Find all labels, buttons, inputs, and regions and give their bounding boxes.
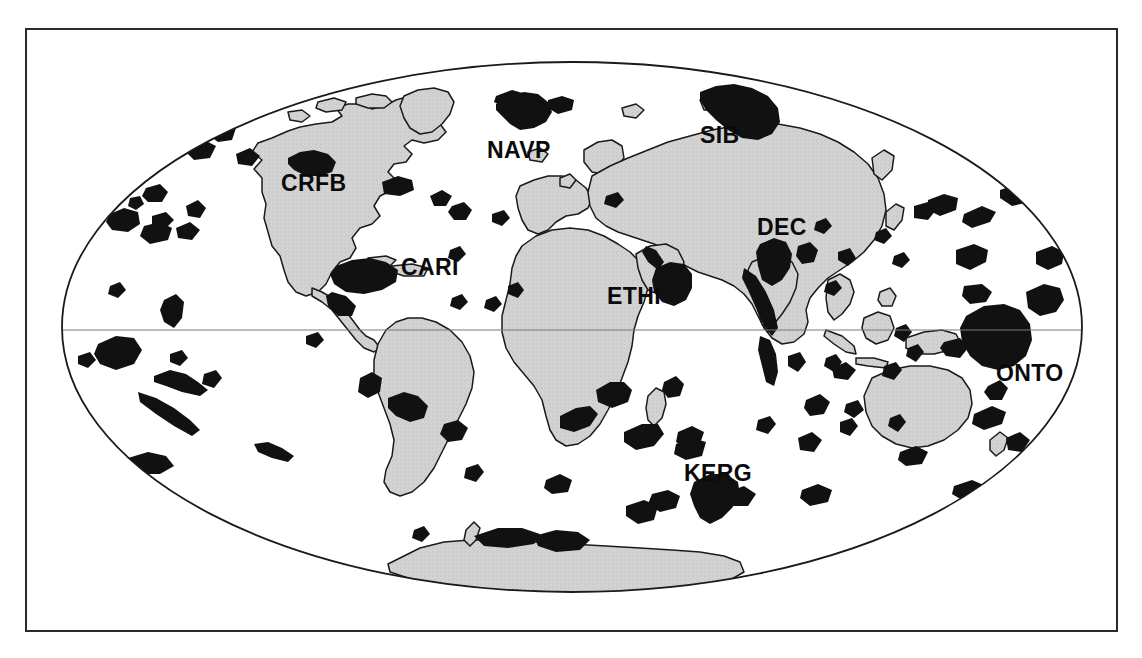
landmass-sumatra xyxy=(824,330,856,354)
lip-dot-1 xyxy=(306,332,324,348)
lip-indian-2 xyxy=(804,394,830,416)
figure-root: CRFB NAVP SIB CARI DEC ETHI ONTO KERG xyxy=(0,0,1142,658)
lip-ninetyeast xyxy=(758,336,778,386)
lip-pacific-ne-8 xyxy=(108,282,126,298)
lip-pacific-ne-9 xyxy=(160,294,184,328)
landmass-southeast-asia xyxy=(826,274,854,320)
lip-africa-south-1 xyxy=(624,424,664,450)
lip-cari-south xyxy=(326,292,356,316)
landmass-madagascar xyxy=(646,388,666,426)
lip-onto-sw xyxy=(962,284,992,304)
lip-atlantic-9 xyxy=(464,464,484,482)
lip-label-onto: ONTO xyxy=(996,362,1064,385)
lip-natl-small-1 xyxy=(430,190,452,206)
lip-label-sib: SIB xyxy=(700,124,740,147)
lip-label-dec: DEC xyxy=(757,216,807,239)
lip-nepacific-2 xyxy=(186,140,216,160)
lip-onto-west xyxy=(956,244,988,270)
lip-pacific-ne-5 xyxy=(152,212,174,228)
lip-pacific-se-8 xyxy=(202,370,222,388)
lip-onto-manihiki xyxy=(1026,284,1064,316)
lip-indian-3 xyxy=(840,418,858,436)
landmass-java xyxy=(856,358,888,368)
world-map-svg xyxy=(0,0,1142,658)
lip-pacific-ne-7 xyxy=(176,222,200,240)
landmass-arctic-islands-3 xyxy=(288,110,310,122)
lip-label-kerg: KERG xyxy=(684,462,752,485)
lip-atlantic-13 xyxy=(412,526,430,542)
lip-indian-1 xyxy=(788,352,806,372)
lip-atlantic-10 xyxy=(544,474,572,494)
lip-dot-2 xyxy=(450,294,468,310)
landmass-kamchatka xyxy=(872,150,894,180)
lip-pacific-se-1 xyxy=(94,336,142,370)
lip-atlantic-1 xyxy=(448,202,472,220)
lip-atlantic-4 xyxy=(484,296,502,312)
lip-pacific-se-5 xyxy=(138,392,200,436)
lip-label-ethi: ETHI xyxy=(607,285,661,308)
lip-pacific-w-8 xyxy=(952,480,986,500)
lip-pacific-se-6 xyxy=(254,442,294,462)
lip-pacific-se-4 xyxy=(154,370,208,396)
lip-pacific-w-4 xyxy=(844,400,864,418)
landmass-australia xyxy=(864,366,972,448)
landmass-arctic-islands-1 xyxy=(356,94,392,108)
lip-dot-3 xyxy=(892,252,910,268)
lip-pacific-w-10 xyxy=(756,416,776,434)
landmass-borneo xyxy=(862,312,894,344)
lip-pacific-w-7 xyxy=(898,446,928,466)
landmass-new-zealand xyxy=(990,432,1008,456)
landmass-island-svalbard xyxy=(622,104,644,118)
lip-atlantic-2 xyxy=(492,210,510,226)
lip-pacific-se-3 xyxy=(170,350,188,366)
lip-cari xyxy=(330,258,398,294)
lip-madagascar-east xyxy=(662,376,684,398)
landmass-japan xyxy=(886,204,904,230)
lip-antarctic-3 xyxy=(800,484,832,506)
lip-label-navp: NAVP xyxy=(487,139,551,162)
lip-label-crfb: CRFB xyxy=(281,172,346,195)
lip-pacific-se-2 xyxy=(78,352,96,368)
landmass-philippines xyxy=(878,288,896,306)
lip-pacific-ne-4 xyxy=(128,196,144,210)
lip-pacific-w-9 xyxy=(798,432,822,452)
lip-pacific-ne-6 xyxy=(186,200,206,218)
lip-onto-arc-2 xyxy=(962,206,996,228)
lip-label-cari: CARI xyxy=(401,256,459,279)
lip-pacific-w-5 xyxy=(972,406,1006,430)
lip-pacific-ne-3 xyxy=(142,184,168,202)
lip-pacific-w-6 xyxy=(1006,432,1030,452)
lip-navp-east xyxy=(548,96,574,114)
landmass-europe xyxy=(516,176,592,234)
lip-pacific-ne-1 xyxy=(106,208,140,232)
landmass-arctic-islands-2 xyxy=(316,98,346,112)
